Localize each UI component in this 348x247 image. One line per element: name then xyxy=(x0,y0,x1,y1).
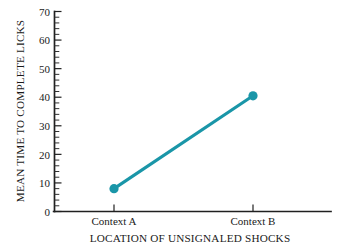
chart-background xyxy=(0,0,348,247)
x-tick-label-context-a: Context A xyxy=(92,215,137,227)
y-tick-label: 20 xyxy=(39,149,51,161)
y-tick-label: 0 xyxy=(45,206,51,218)
y-axis-title: MEAN TIME TO COMPLETE LICKS xyxy=(14,20,26,203)
y-tick-label: 50 xyxy=(39,63,51,75)
data-point-context-b[interactable] xyxy=(248,91,257,100)
y-tick-label: 10 xyxy=(39,177,51,189)
line-chart-figure: 70 60 50 40 30 20 10 0 Context A Context… xyxy=(0,0,348,247)
y-tick-label: 30 xyxy=(39,120,51,132)
x-axis-title: LOCATION OF UNSIGNALED SHOCKS xyxy=(90,232,291,244)
x-tick-label-context-b: Context B xyxy=(231,215,276,227)
y-tick-label: 40 xyxy=(39,91,51,103)
y-tick-label: 60 xyxy=(39,34,51,46)
chart-container: 70 60 50 40 30 20 10 0 Context A Context… xyxy=(0,0,348,247)
y-tick-label: 70 xyxy=(39,6,51,18)
data-point-context-a[interactable] xyxy=(109,184,118,193)
